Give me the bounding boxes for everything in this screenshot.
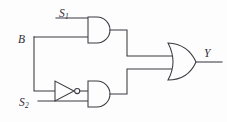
and-gate-top: [88, 17, 110, 43]
and-gate-bottom: [88, 81, 110, 107]
wire-and-top-to-or: [110, 30, 172, 56]
not-gate-triangle: [55, 81, 74, 101]
label-s1: S1: [59, 4, 69, 21]
not-gate-bubble-icon: [75, 88, 80, 93]
wire-b-branch-to-inverter: [34, 37, 55, 91]
label-y-output: Y: [204, 44, 211, 61]
label-b: B: [18, 30, 25, 47]
circuit-svg: [0, 0, 227, 122]
label-s2: S2: [19, 93, 29, 110]
circuit-diagram-canvas: S1 B S2 Y: [0, 0, 227, 122]
wire-and-bottom-to-or: [110, 69, 172, 94]
or-gate: [168, 43, 196, 80]
